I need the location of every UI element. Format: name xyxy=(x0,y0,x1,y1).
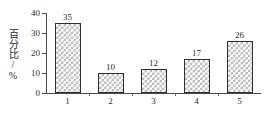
x-category-label: 2 xyxy=(108,96,113,106)
y-axis-title: 百分比/% xyxy=(6,20,20,90)
x-tick-mark xyxy=(89,93,90,96)
y-tick-label: 40 xyxy=(31,9,40,18)
bar-value-label: 10 xyxy=(106,62,115,72)
bar-value-label: 26 xyxy=(235,30,244,40)
y-tick-label: 30 xyxy=(31,29,40,38)
y-tick-mark xyxy=(42,13,46,14)
bar-rect: 12 xyxy=(141,69,167,93)
bar-rect: 17 xyxy=(184,59,210,93)
bar-item: 123 xyxy=(141,69,167,93)
bar-value-label: 17 xyxy=(192,48,201,58)
y-axis-line xyxy=(46,13,47,93)
y-tick-label: 0 xyxy=(36,89,41,98)
x-category-label: 1 xyxy=(65,96,70,106)
y-tick-label: 10 xyxy=(31,69,40,78)
y-tick-mark xyxy=(42,93,46,94)
bar-rect: 26 xyxy=(227,41,253,93)
plot-area: 010203040 351102123174265 xyxy=(46,13,261,93)
x-category-label: 5 xyxy=(237,96,242,106)
x-category-label: 3 xyxy=(151,96,156,106)
bar-item: 102 xyxy=(98,73,124,93)
bar-value-label: 12 xyxy=(149,58,158,68)
bar-item: 265 xyxy=(227,41,253,93)
bar-chart-figure: 百分比/% 010203040 351102123174265 xyxy=(0,0,269,116)
y-tick-mark xyxy=(42,73,46,74)
x-category-label: 4 xyxy=(194,96,199,106)
y-tick-label: 20 xyxy=(31,49,40,58)
x-axis-line xyxy=(46,93,261,94)
y-tick-mark xyxy=(42,33,46,34)
bar-rect: 10 xyxy=(98,73,124,93)
x-tick-mark xyxy=(218,93,219,96)
bar-item: 174 xyxy=(184,59,210,93)
bar-rect: 35 xyxy=(55,23,81,93)
y-tick-mark xyxy=(42,53,46,54)
x-tick-mark xyxy=(175,93,176,96)
x-tick-mark xyxy=(132,93,133,96)
bar-value-label: 35 xyxy=(63,12,72,22)
bar-item: 351 xyxy=(55,23,81,93)
